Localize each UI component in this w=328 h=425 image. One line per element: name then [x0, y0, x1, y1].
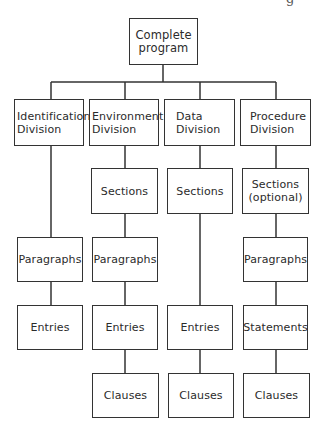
node-procedure-sections-optional: Sections (optional) [242, 168, 309, 214]
node-label: Entries [180, 321, 219, 334]
node-label: Entries [30, 321, 69, 334]
node-label: Procedure Division [250, 110, 306, 136]
node-data-sections: Sections [167, 168, 233, 214]
node-label: Clauses [179, 389, 222, 402]
cobol-structure-diagram: g [0, 0, 328, 425]
node-procedure-paragraphs: Paragraphs [243, 237, 308, 282]
node-label: Environment Division [92, 110, 163, 136]
node-environment-division: Environment Division [89, 99, 159, 146]
node-data-entries: Entries [167, 305, 233, 350]
node-procedure-clauses: Clauses [243, 373, 310, 418]
node-identification-entries: Entries [17, 305, 83, 350]
node-label: Clauses [104, 389, 147, 402]
node-environment-entries: Entries [92, 305, 158, 350]
node-label: Paragraphs [93, 253, 156, 266]
node-label: Clauses [255, 389, 298, 402]
node-data-clauses: Clauses [168, 373, 234, 418]
node-environment-clauses: Clauses [92, 373, 159, 418]
node-identification-division: Identification Division [14, 99, 84, 146]
node-label: Sections [176, 185, 223, 198]
node-label: Sections (optional) [248, 178, 302, 204]
node-environment-sections: Sections [91, 168, 158, 214]
node-label: Paragraphs [18, 253, 81, 266]
node-label: Statements [243, 321, 308, 334]
node-procedure-division: Procedure Division [240, 99, 311, 146]
node-label: Data Division [176, 110, 220, 136]
node-complete-program: Complete program [129, 18, 198, 65]
node-label: Complete program [135, 29, 191, 55]
node-data-division: Data Division [164, 99, 235, 146]
node-label: Entries [105, 321, 144, 334]
node-environment-paragraphs: Paragraphs [92, 237, 158, 282]
node-label: Sections [101, 185, 148, 198]
node-label: Identification Division [17, 110, 91, 136]
node-procedure-statements: Statements [243, 305, 308, 350]
node-identification-paragraphs: Paragraphs [17, 237, 83, 282]
node-label: Paragraphs [244, 253, 307, 266]
